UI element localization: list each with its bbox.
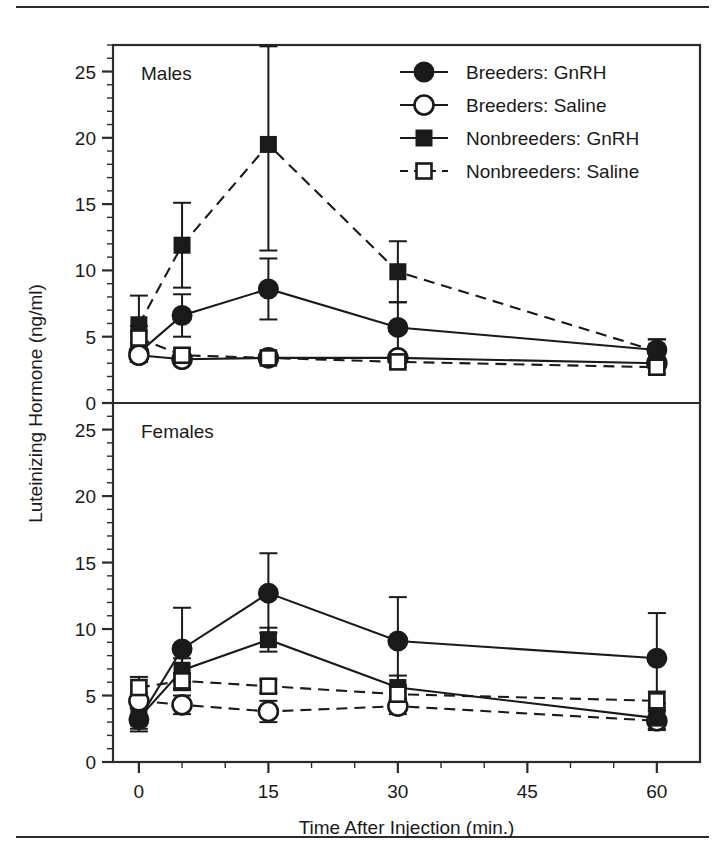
- y-tick-label: 20: [75, 486, 96, 507]
- legend-label-breeders_gnrh: Breeders: GnRH: [466, 62, 606, 83]
- legend-marker-nonbreeders_saline: [417, 164, 432, 179]
- legend-label-breeders_saline: Breeders: Saline: [466, 95, 606, 116]
- data-point: [259, 279, 278, 298]
- legend-item-nonbreeders_gnrh[interactable]: Nonbreeders: GnRH: [400, 128, 639, 149]
- x-tick-label: 0: [134, 781, 145, 802]
- panel-label-males: Males: [141, 63, 192, 84]
- legend-marker-breeders_saline: [415, 96, 434, 115]
- y-axis-title: Luteinizing Hormone (ng/ml): [25, 284, 46, 523]
- legend: Breeders: GnRHBreeders: SalineNonbreeder…: [400, 62, 639, 182]
- data-point: [173, 639, 192, 658]
- data-point: [131, 711, 146, 726]
- data-point: [649, 344, 664, 359]
- data-point: [390, 687, 405, 702]
- y-tick-label: 5: [85, 327, 96, 348]
- data-point: [175, 348, 190, 363]
- legend-marker-nonbreeders_gnrh: [417, 131, 432, 146]
- legend-label-nonbreeders_gnrh: Nonbreeders: GnRH: [466, 128, 639, 149]
- data-point: [649, 693, 664, 708]
- data-point: [261, 632, 276, 647]
- y-tick-label: 5: [85, 686, 96, 707]
- data-point: [129, 346, 148, 365]
- figure-container: 05101520250510152025015304560Time After …: [0, 0, 725, 867]
- y-tick-label: 25: [75, 62, 96, 83]
- y-tick-label: 10: [75, 619, 96, 640]
- x-axis: 015304560: [134, 762, 668, 802]
- panel-females: [129, 553, 666, 731]
- data-point: [261, 137, 276, 152]
- data-point: [649, 711, 664, 726]
- legend-item-breeders_saline[interactable]: Breeders: Saline: [400, 95, 606, 116]
- data-point: [259, 702, 278, 721]
- data-point: [173, 695, 192, 714]
- y-tick-label: 0: [85, 393, 96, 414]
- panel-label-females: Females: [141, 421, 214, 442]
- x-tick-label: 60: [646, 781, 667, 802]
- y-tick-label: 0: [85, 752, 96, 773]
- luteinizing-hormone-plot: 05101520250510152025015304560Time After …: [0, 0, 725, 867]
- y-tick-label: 20: [75, 128, 96, 149]
- legend-item-breeders_gnrh[interactable]: Breeders: GnRH: [400, 62, 606, 83]
- data-point: [647, 649, 666, 668]
- y-tick-label: 10: [75, 260, 96, 281]
- data-point: [175, 238, 190, 253]
- data-point: [388, 318, 407, 337]
- data-point: [261, 350, 276, 365]
- data-point: [173, 306, 192, 325]
- y-tick-label: 25: [75, 420, 96, 441]
- data-point: [259, 584, 278, 603]
- x-tick-label: 30: [387, 781, 408, 802]
- x-axis-title: Time After Injection (min.): [299, 817, 515, 838]
- x-tick-label: 15: [258, 781, 279, 802]
- data-point: [261, 679, 276, 694]
- y-axis-males: 0510152025: [75, 45, 113, 414]
- y-tick-label: 15: [75, 194, 96, 215]
- x-tick-label: 45: [517, 781, 538, 802]
- data-point: [390, 264, 405, 279]
- data-point: [649, 360, 664, 375]
- legend-item-nonbreeders_saline[interactable]: Nonbreeders: Saline: [400, 161, 639, 182]
- legend-marker-breeders_gnrh: [415, 63, 434, 82]
- data-point: [131, 680, 146, 695]
- data-point: [175, 673, 190, 688]
- data-point: [390, 354, 405, 369]
- y-tick-label: 15: [75, 553, 96, 574]
- y-axis-females: 0510152025: [75, 403, 113, 773]
- data-point: [131, 331, 146, 346]
- data-point: [388, 632, 407, 651]
- legend-label-nonbreeders_saline: Nonbreeders: Saline: [466, 161, 639, 182]
